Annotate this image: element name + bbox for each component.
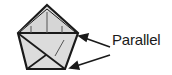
arrow-bottom bbox=[70, 55, 110, 69]
arrow-top bbox=[79, 34, 110, 47]
parallel-label: Parallel bbox=[112, 31, 160, 48]
pentagon-shape bbox=[18, 5, 78, 69]
